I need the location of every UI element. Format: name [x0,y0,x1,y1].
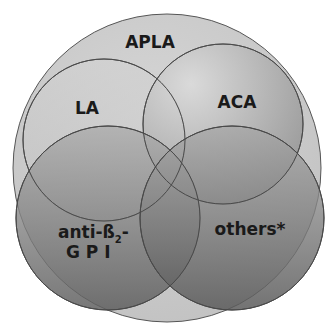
venn-diagram: APLA LA ACA anti-ß2- G P I others* [0,0,336,332]
aca-label: ACA [218,92,258,112]
anti-b2gpi-label-suffix: - [122,222,129,242]
anti-b2gpi-label-line2: G P I [66,242,111,262]
others-circle [140,126,324,310]
anti-b2gpi-subscript: 2 [115,234,122,245]
la-label: LA [75,98,100,118]
apla-label: APLA [125,32,175,52]
others-label: others* [215,219,286,239]
anti-b2gpi-label-prefix: anti-ß [58,222,115,242]
